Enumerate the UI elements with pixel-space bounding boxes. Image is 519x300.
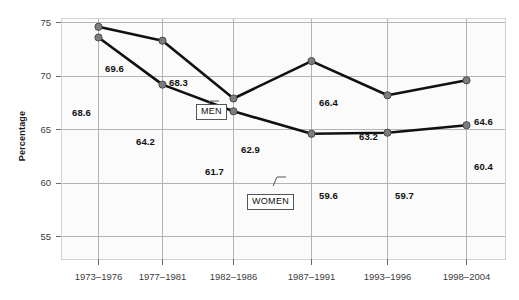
plot-background xyxy=(61,18,505,259)
data-point-marker xyxy=(384,129,391,136)
data-point-marker xyxy=(95,34,102,41)
series-callout-women: WOMEN xyxy=(247,194,294,210)
y-tick-label-70: 70 xyxy=(31,70,51,81)
x-tick-label-6: 1998–2004 xyxy=(427,271,507,282)
x-tick-label-5: 1993–1996 xyxy=(348,271,428,282)
y-tick-label-65: 65 xyxy=(31,124,51,135)
data-point-marker xyxy=(308,58,315,65)
data-point-marker xyxy=(230,108,237,115)
data-label-men-4: 66.4 xyxy=(319,97,338,108)
data-label-men-6: 64.6 xyxy=(474,116,493,127)
y-tick-label-55: 55 xyxy=(31,231,51,242)
data-label-women-6: 60.4 xyxy=(474,161,493,172)
data-label-women-2: 64.2 xyxy=(136,136,155,147)
y-tick-label-75: 75 xyxy=(31,17,51,28)
data-label-men-3: 62.9 xyxy=(241,144,260,155)
data-label-women-3: 61.7 xyxy=(205,166,224,177)
data-label-men-5: 63.2 xyxy=(359,131,378,142)
y-tick-label-60: 60 xyxy=(31,177,51,188)
data-label-men-1: 69.6 xyxy=(105,63,124,74)
data-label-men-2: 68.3 xyxy=(169,77,188,88)
data-point-marker xyxy=(384,92,391,99)
data-label-women-5: 59.7 xyxy=(395,190,414,201)
x-tick-label-3: 1982–1986 xyxy=(194,271,274,282)
data-point-marker xyxy=(463,122,470,129)
x-axis-ticks xyxy=(99,259,467,265)
x-tick-label-4: 1987–1991 xyxy=(272,271,352,282)
y-axis-ticks xyxy=(56,23,61,237)
data-point-marker xyxy=(463,77,470,84)
data-label-women-4: 59.6 xyxy=(319,190,338,201)
data-point-marker xyxy=(230,95,237,102)
x-tick-label-2: 1977–1981 xyxy=(123,271,203,282)
data-point-marker xyxy=(95,23,102,30)
data-point-marker xyxy=(308,130,315,137)
y-axis-title: Percentage xyxy=(17,96,27,176)
data-point-marker xyxy=(159,37,166,44)
data-label-women-1: 68.6 xyxy=(72,107,91,118)
chart-figure: Percentage 75 70 65 60 55 1973–1976 1977… xyxy=(0,0,519,300)
series-callout-men: MEN xyxy=(196,104,227,120)
data-point-marker xyxy=(159,81,166,88)
